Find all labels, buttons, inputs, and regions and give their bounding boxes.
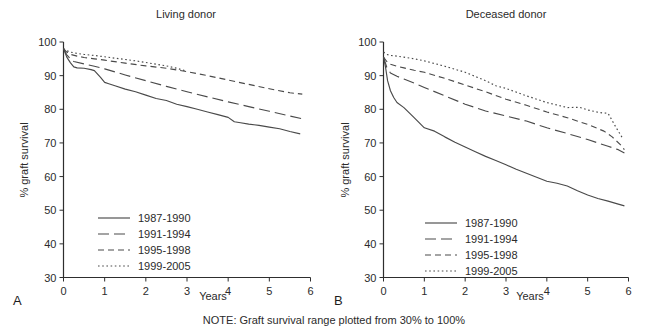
legend-label: 1995-1998 xyxy=(465,249,518,261)
y-tick-label: 50 xyxy=(364,204,376,216)
x-tick-label: 4 xyxy=(544,285,550,297)
panel-a-y-ticklabels: 10090807060504030 xyxy=(38,36,56,284)
x-tick-label: 1 xyxy=(421,285,427,297)
series-line-1987-1990 xyxy=(64,49,301,134)
y-tick-label: 60 xyxy=(364,171,376,183)
graft-survival-figure: Living donor 10090807060504030 0123456 Y… xyxy=(0,0,652,331)
series-line-1999-2005 xyxy=(384,52,623,138)
panel-b-curves xyxy=(384,52,625,206)
series-line-1991-1994 xyxy=(64,49,303,119)
series-line-1987-1990 xyxy=(384,57,625,206)
series-line-1995-1998 xyxy=(384,57,625,150)
series-line-1995-1998 xyxy=(64,49,303,94)
panel-b-x-axis-title: Years xyxy=(516,290,544,302)
legend-label: 1999-2005 xyxy=(138,260,191,272)
legend-label: 1999-2005 xyxy=(465,265,518,277)
x-tick-label: 6 xyxy=(307,285,313,297)
legend-label: 1991-1994 xyxy=(138,228,191,240)
y-tick-label: 90 xyxy=(44,70,56,82)
x-tick-label: 5 xyxy=(585,285,591,297)
panel-b-title: Deceased donor xyxy=(466,8,547,20)
panel-a-x-axis-title: Years xyxy=(199,290,227,302)
legend-label: 1995-1998 xyxy=(138,244,191,256)
y-tick-label: 90 xyxy=(364,70,376,82)
y-tick-label: 100 xyxy=(38,36,56,48)
y-tick-label: 50 xyxy=(44,204,56,216)
panel-a-axes: 10090807060504030 0123456 xyxy=(38,36,313,297)
panel-a-x-ticklabels: 0123456 xyxy=(60,285,313,297)
y-tick-label: 40 xyxy=(44,238,56,250)
legend-label: 1991-1994 xyxy=(465,233,518,245)
x-tick-label: 0 xyxy=(380,285,386,297)
y-tick-label: 40 xyxy=(364,238,376,250)
panel-a-title: Living donor xyxy=(156,8,216,20)
x-tick-label: 5 xyxy=(266,285,272,297)
x-tick-label: 2 xyxy=(143,285,149,297)
x-tick-label: 3 xyxy=(184,285,190,297)
panel-deceased-donor: Deceased donor 10090807060504030 0123456… xyxy=(334,8,632,308)
panel-b-x-ticklabels: 0123456 xyxy=(380,285,631,297)
panel-a-y-axis-title: % graft survival xyxy=(18,122,30,197)
legend-label: 1987-1990 xyxy=(465,217,518,229)
y-tick-label: 80 xyxy=(364,103,376,115)
panel-b-y-axis-title: % graft survival xyxy=(339,122,351,197)
panel-a-legend: 1987-19901991-19941995-19981999-2005 xyxy=(98,212,191,272)
panel-b-y-ticklabels: 10090807060504030 xyxy=(358,36,376,284)
figure-svg: Living donor 10090807060504030 0123456 Y… xyxy=(0,0,652,331)
y-tick-label: 30 xyxy=(364,272,376,284)
y-tick-label: 70 xyxy=(364,137,376,149)
panel-b-letter: B xyxy=(334,293,343,308)
legend-label: 1987-1990 xyxy=(138,212,191,224)
x-tick-label: 3 xyxy=(503,285,509,297)
y-tick-label: 100 xyxy=(358,36,376,48)
x-tick-label: 2 xyxy=(462,285,468,297)
y-tick-label: 30 xyxy=(44,272,56,284)
panel-b-legend: 1987-19901991-19941995-19981999-2005 xyxy=(425,217,518,277)
x-tick-label: 6 xyxy=(625,285,631,297)
y-tick-label: 60 xyxy=(44,171,56,183)
figure-note: NOTE: Graft survival range plotted from … xyxy=(203,314,466,326)
panel-a-curves xyxy=(64,49,303,134)
panel-a-letter: A xyxy=(13,293,22,308)
panel-living-donor: Living donor 10090807060504030 0123456 Y… xyxy=(13,8,314,308)
y-tick-label: 70 xyxy=(44,137,56,149)
x-tick-label: 0 xyxy=(60,285,66,297)
y-tick-label: 80 xyxy=(44,103,56,115)
x-tick-label: 1 xyxy=(102,285,108,297)
